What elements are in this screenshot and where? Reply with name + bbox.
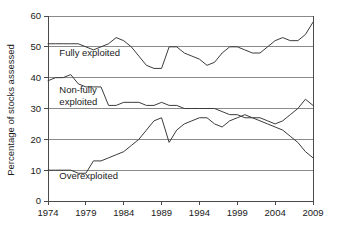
y-tick-label-60: 60 — [30, 10, 41, 21]
x-tick-label-1989: 1989 — [151, 207, 172, 218]
x-tick-label-1974: 1974 — [37, 207, 58, 218]
x-tick-label-1994: 1994 — [189, 207, 210, 218]
x-tick-label-1984: 1984 — [113, 207, 134, 218]
x-tick-label-2009: 2009 — [302, 207, 323, 218]
series-inline-labels: Fully exploitedNon-fullyexploitedOverexp… — [59, 47, 120, 181]
y-tick-label-10: 10 — [30, 165, 41, 176]
x-tick-label-2004: 2004 — [265, 207, 286, 218]
y-tick-label-50: 50 — [30, 41, 41, 52]
series-label-overexploited: Overexploited — [59, 170, 118, 181]
chart-figure: 0102030405060 19741979198419891994199920… — [0, 0, 340, 236]
x-axis-tick-labels: 19741979198419891994199920042009 — [37, 207, 323, 218]
y-tick-label-20: 20 — [30, 134, 41, 145]
x-axis-ticks — [48, 201, 313, 205]
series-line-fully-exploited — [48, 22, 313, 68]
y-axis-title: Percentage of stocks assessed — [5, 44, 16, 176]
series-label-fully-exploited: Fully exploited — [59, 47, 120, 58]
y-axis-tick-labels: 0102030405060 — [30, 10, 41, 206]
x-tick-label-1999: 1999 — [227, 207, 248, 218]
line-chart: 0102030405060 19741979198419891994199920… — [0, 0, 340, 236]
series-label-non-fully-exploited: Non-fully — [59, 84, 97, 95]
series-label-non-fully-exploited: exploited — [59, 96, 97, 107]
y-tick-label-30: 30 — [30, 103, 41, 114]
y-axis-ticks — [44, 16, 48, 201]
y-tick-label-0: 0 — [36, 195, 41, 206]
x-tick-label-1979: 1979 — [75, 207, 96, 218]
y-tick-label-40: 40 — [30, 72, 41, 83]
